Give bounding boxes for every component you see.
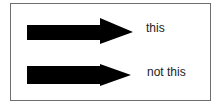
label-not-this: not this (147, 66, 186, 78)
arrow-small-head-icon (27, 64, 131, 86)
label-this: this (146, 22, 165, 34)
arrows-canvas (0, 0, 223, 107)
arrow-large-head-icon (27, 18, 133, 44)
